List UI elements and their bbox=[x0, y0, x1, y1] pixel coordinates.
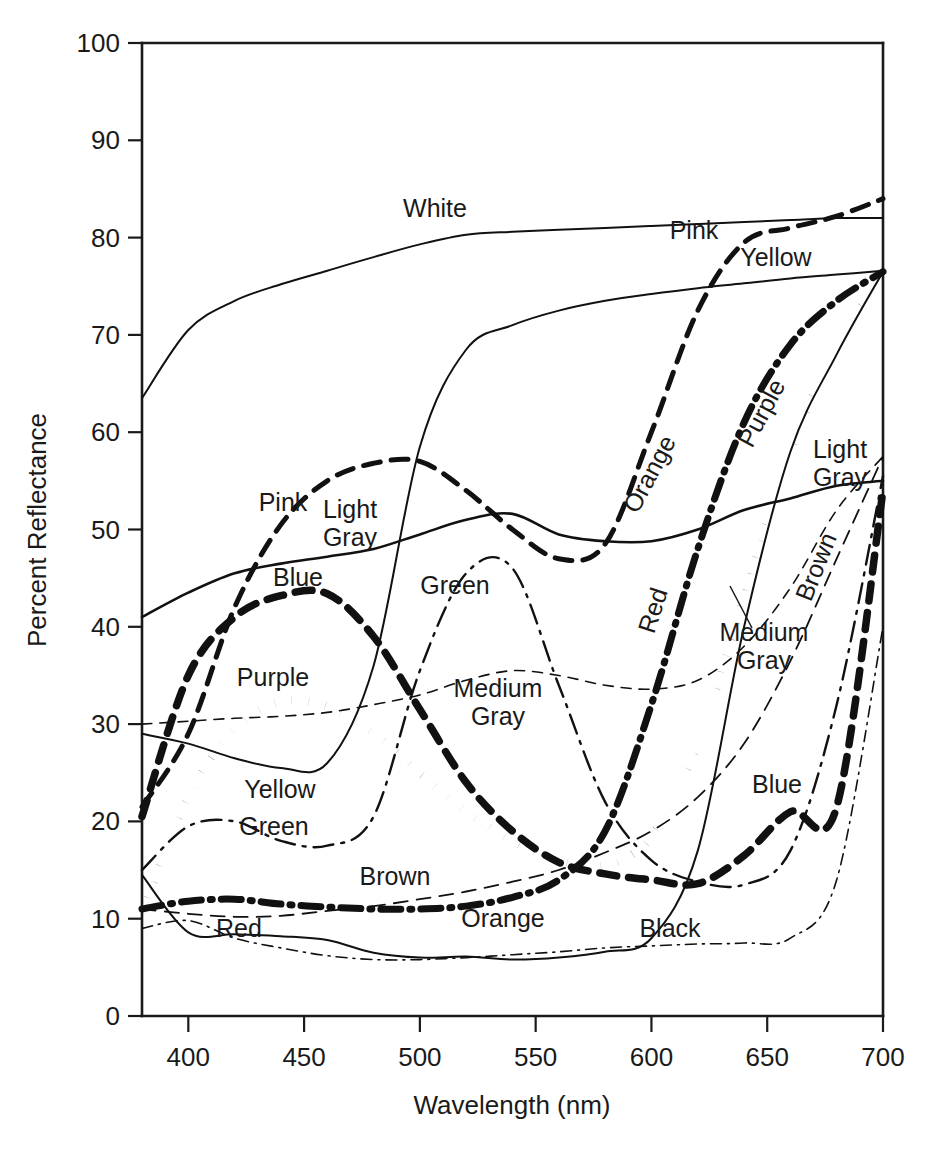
y-tick-label: 0 bbox=[106, 1001, 120, 1031]
y-tick-label: 40 bbox=[91, 612, 120, 642]
x-tick-label: 500 bbox=[398, 1042, 441, 1072]
y-tick-label: 100 bbox=[77, 28, 120, 58]
x-tick-label: 550 bbox=[514, 1042, 557, 1072]
x-tick-label: 600 bbox=[630, 1042, 673, 1072]
x-tick-label: 650 bbox=[746, 1042, 789, 1072]
x-axis-title: Wavelength (nm) bbox=[414, 1090, 611, 1120]
reflectance-chart: 0102030405060708090100 40045050055060065… bbox=[0, 0, 926, 1152]
curve-label-blue: Blue bbox=[273, 563, 323, 591]
x-tick-label: 700 bbox=[861, 1042, 904, 1072]
curve-label-medium: Medium bbox=[720, 618, 809, 646]
curve-label-gray: Gray bbox=[737, 646, 792, 674]
curve-label-yellow: Yellow bbox=[740, 243, 812, 271]
y-tick-label: 50 bbox=[91, 515, 120, 545]
curve-label-orange: Orange bbox=[461, 904, 544, 932]
curve-label-gray: Gray bbox=[471, 702, 526, 730]
y-axis-ticks: 0102030405060708090100 bbox=[77, 28, 142, 1031]
y-tick-label: 10 bbox=[91, 904, 120, 934]
curve-label-orange: Orange bbox=[617, 430, 681, 517]
curve-label-red: Red bbox=[216, 914, 262, 942]
x-tick-label: 400 bbox=[167, 1042, 210, 1072]
curve-label-blue: Blue bbox=[752, 770, 802, 798]
x-axis-ticks: 400450500550600650700 bbox=[167, 1016, 905, 1072]
curve-label-light: Light bbox=[323, 495, 377, 523]
curve-label-yellow: Yellow bbox=[244, 775, 316, 803]
curve-label-red: Red bbox=[632, 584, 673, 636]
curve-label-brown: Brown bbox=[360, 862, 431, 890]
x-tick-label: 450 bbox=[282, 1042, 325, 1072]
y-tick-label: 70 bbox=[91, 320, 120, 350]
y-tick-label: 30 bbox=[91, 709, 120, 739]
curve-label-green: Green bbox=[420, 571, 489, 599]
curve-label-medium: Medium bbox=[454, 674, 543, 702]
curve-label-purple: Purple bbox=[237, 663, 309, 691]
y-tick-label: 80 bbox=[91, 223, 120, 253]
curve-label-purple: Purple bbox=[732, 374, 791, 451]
curve-label-pink: Pink bbox=[259, 488, 308, 516]
data-curves bbox=[142, 199, 883, 960]
y-axis-title: Percent Reflectance bbox=[22, 413, 52, 647]
y-tick-label: 90 bbox=[91, 125, 120, 155]
curve-label-white: White bbox=[403, 194, 467, 222]
curve-label-green: Green bbox=[239, 812, 308, 840]
curve-label-light: Light bbox=[813, 435, 867, 463]
curve-light-gray bbox=[142, 481, 883, 617]
curve-label-black: Black bbox=[639, 914, 701, 942]
y-tick-label: 20 bbox=[91, 806, 120, 836]
y-tick-label: 60 bbox=[91, 417, 120, 447]
spectral-reflectance-figure: 0102030405060708090100 40045050055060065… bbox=[0, 0, 926, 1152]
curve-label-pink: Pink bbox=[670, 216, 719, 244]
curve-label-gray: Gray bbox=[813, 463, 868, 491]
curve-label-gray: Gray bbox=[323, 523, 378, 551]
curve-label-brown: Brown bbox=[789, 529, 842, 605]
